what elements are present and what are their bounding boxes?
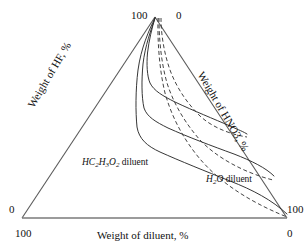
axis-left-edge [22, 17, 155, 218]
apex-right-value: 0 [176, 10, 182, 21]
plot-canvas [0, 0, 308, 252]
water-formula: H2O [206, 174, 223, 184]
bottom-left-inner-value: 0 [9, 204, 15, 215]
bottom-axis-title: Weight of diluent, % [97, 230, 188, 241]
bottom-left-outer-value: 100 [15, 228, 32, 239]
apex-left-value: 100 [131, 10, 148, 21]
acetic-formula: HC2H3O2 [82, 157, 119, 167]
acetic-suffix: diluent [122, 157, 148, 167]
acetic-acid-curve-label: HC2H3O2 diluent [82, 158, 148, 168]
water-curve-label: H2O diluent [206, 175, 252, 185]
water-suffix: diluent [226, 174, 252, 184]
bottom-right-outer-value: 0 [287, 228, 293, 239]
bottom-right-inner-value: 100 [287, 204, 304, 215]
ternary-phase-diagram: 100 0 0 100 100 0 Weight of diluent, % W… [0, 0, 308, 252]
